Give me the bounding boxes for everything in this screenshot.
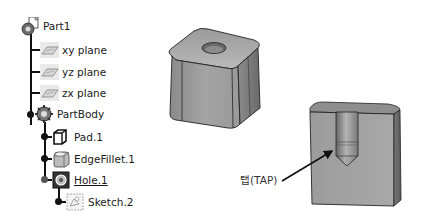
tree-branch-line <box>30 71 40 73</box>
expand-knob[interactable] <box>41 155 48 162</box>
tree-node-label: zx plane <box>62 87 106 99</box>
plane-icon <box>40 84 58 102</box>
tree-node-label: xy plane <box>62 44 107 56</box>
tree-node-yz-plane[interactable]: yz plane <box>40 62 106 82</box>
tree-node-xy-plane[interactable]: xy plane <box>40 40 107 60</box>
specification-tree: Part1 xy plane yz plane zx plane PartBod… <box>0 0 150 222</box>
tree-node-zx-plane[interactable]: zx plane <box>40 83 106 103</box>
collapse-knob[interactable] <box>41 176 48 183</box>
tap-callout-label: 탭(TAP) <box>240 172 277 187</box>
tree-node-label: Pad.1 <box>74 131 103 143</box>
hole-icon <box>52 171 70 189</box>
expand-knob[interactable] <box>41 133 48 140</box>
tree-node-label: Sketch.2 <box>88 196 133 208</box>
tree-node-sketch2[interactable]: Sketch.2 <box>66 192 133 212</box>
tree-node-part1[interactable]: Part1 <box>21 16 70 36</box>
edge-fillet-icon <box>52 150 70 168</box>
tree-node-label: Part1 <box>43 20 70 32</box>
tree-node-edgefillet1[interactable]: EdgeFillet.1 <box>52 149 135 169</box>
tree-node-partbody[interactable]: PartBody <box>35 104 104 124</box>
body-gear-icon <box>35 105 53 123</box>
tree-node-label: Hole.1 <box>74 174 108 186</box>
expand-knob[interactable] <box>27 111 34 118</box>
3d-viewport[interactable] <box>150 0 424 222</box>
filleted-block-with-hole-model <box>164 26 264 132</box>
pad-icon <box>52 128 70 146</box>
part-icon <box>21 17 39 35</box>
body-trunk-line <box>44 122 46 182</box>
sketch-icon <box>66 193 84 211</box>
tree-node-label: yz plane <box>62 66 106 78</box>
tree-node-label: PartBody <box>57 108 104 120</box>
tree-node-hole1[interactable]: Hole.1 <box>52 170 108 190</box>
tree-branch-line <box>30 49 40 51</box>
tree-branch-line <box>30 92 40 94</box>
plane-icon <box>40 41 58 59</box>
tree-node-pad1[interactable]: Pad.1 <box>52 127 103 147</box>
tree-node-label: EdgeFillet.1 <box>74 153 135 165</box>
expand-knob[interactable] <box>55 198 62 205</box>
callout-arrow <box>280 145 340 185</box>
plane-icon <box>40 63 58 81</box>
